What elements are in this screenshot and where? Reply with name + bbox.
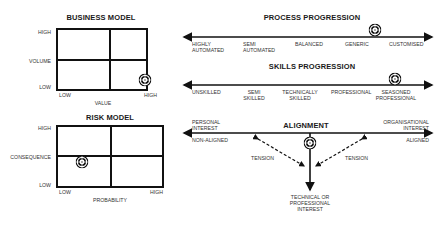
skills-progression-title: SKILLS PROGRESSION <box>269 62 355 71</box>
target-marker-icon <box>389 73 402 86</box>
process-stage-semi-automated: SEMI AUTOMATED <box>243 41 275 53</box>
tension-right-label: TENSION <box>345 155 368 161</box>
non-aligned-label: NON-ALIGNED <box>192 137 228 143</box>
skills-stage-semi-skilled: SEMI SKILLED <box>243 89 264 101</box>
tension-left-label: TENSION <box>251 155 274 161</box>
alignment-title: ALIGNMENT <box>283 121 328 130</box>
skills-stage-seasoned-professional: SEASONED PROFESSIONAL <box>376 89 416 101</box>
process-stage-highly-automated: HIGHLY AUTOMATED <box>192 41 224 53</box>
target-marker-icon <box>304 137 317 150</box>
skills-stage-professional: PROFESSIONAL <box>331 89 371 95</box>
skills-stage-unskilled: UNSKILLED <box>192 89 221 95</box>
technical-professional-interest-label: TECHNICAL OR PROFESSIONAL INTEREST <box>290 194 330 213</box>
process-progression-title: PROCESS PROGRESSION <box>264 13 361 22</box>
process-stage-customised: CUSTOMISED <box>389 41 424 47</box>
aligned-label: ALIGNED <box>406 137 429 143</box>
target-marker-icon <box>369 24 382 37</box>
skills-stage-technically-skilled: TECHNICALLY SKILLED <box>282 89 317 101</box>
process-stage-balanced: BALANCED <box>295 41 323 47</box>
personal-interest-label: PERSONAL INTEREST <box>192 119 220 131</box>
organisational-interest-label: ORGANISATIONAL INTEREST <box>383 119 429 131</box>
process-stage-generic: GENERIC <box>345 41 369 47</box>
